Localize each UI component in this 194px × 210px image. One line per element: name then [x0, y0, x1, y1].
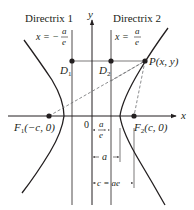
- dim-a-label: a: [102, 151, 107, 162]
- point-p: [142, 58, 147, 63]
- origin-label: 0: [84, 119, 89, 130]
- label-f2: F2(c, 0): [133, 121, 168, 135]
- directrix-1-title: Directrix 1: [25, 12, 73, 24]
- hyperbola-diagram: x y 0 Directrix 1 Directrix 2 x = − a e …: [0, 0, 194, 210]
- label-d2: D2: [98, 64, 111, 78]
- point-f1: [46, 113, 51, 118]
- x-axis-label: x: [180, 109, 186, 121]
- label-d1: D1: [59, 64, 72, 78]
- directrix-2-eq-lhs: x =: [114, 31, 129, 42]
- point-f2: [131, 113, 136, 118]
- directrix-1-eq-lhs: x = −: [35, 31, 59, 42]
- dashed-p-f2: [134, 61, 145, 116]
- label-f1: F1(−c, 0): [13, 121, 55, 135]
- point-d1: [69, 58, 74, 63]
- dim-c-label: c = ae: [97, 178, 120, 188]
- directrix-2-eq-den: e: [135, 37, 139, 47]
- y-axis-label: y: [87, 8, 93, 20]
- label-p: P(x, y): [148, 55, 179, 68]
- point-d2: [108, 58, 113, 63]
- directrix-1-eq-num: a: [62, 26, 67, 36]
- dim-a-over-e-den: e: [99, 130, 103, 140]
- directrix-2-eq-num: a: [135, 26, 140, 36]
- directrix-2-title: Directrix 2: [113, 12, 161, 24]
- directrix-1-eq-den: e: [62, 37, 66, 47]
- dim-a-over-e-num: a: [99, 119, 104, 129]
